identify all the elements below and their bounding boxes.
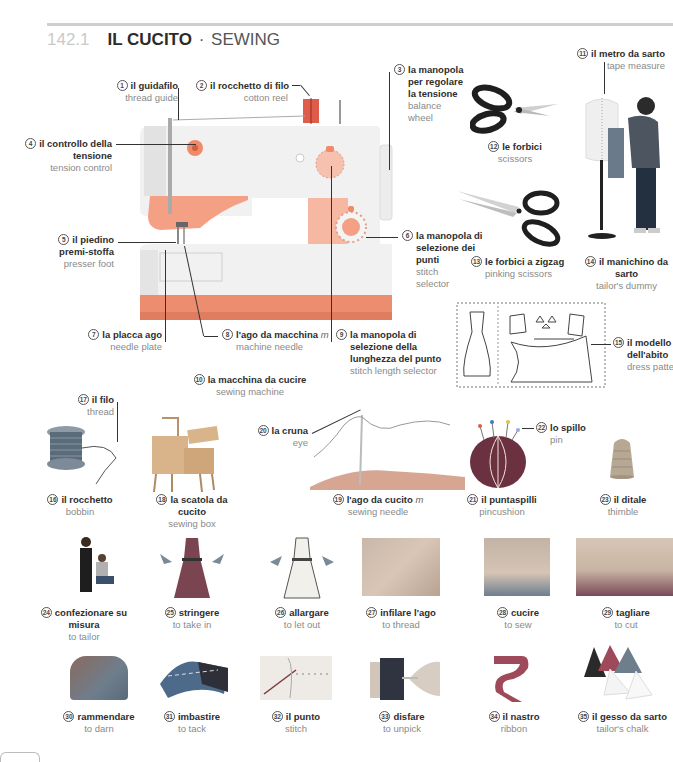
label-pincushion: 21il puntaspilli pincushion	[462, 494, 542, 518]
thread-needle-photo	[362, 538, 440, 596]
leader-line	[118, 242, 176, 243]
label-to-thread: 27infilare l'ago to thread	[356, 607, 446, 631]
stitch-illustration	[260, 656, 332, 700]
sewing-box-illustration	[148, 408, 228, 492]
leader-line	[366, 237, 398, 238]
pinking-scissors-illustration	[455, 185, 565, 250]
label-eye: 20la cruna eye	[248, 425, 308, 449]
darn-illustration	[70, 656, 128, 700]
sew-photo	[484, 538, 550, 596]
scissors-illustration	[470, 80, 560, 140]
label-to-tack: 31imbastire to tack	[152, 711, 232, 735]
label-thread: 17il filo thread	[60, 394, 114, 418]
label-ribbon: 34il nastro ribbon	[474, 711, 554, 735]
leader-line	[117, 402, 118, 442]
label-stitch: 32il punto stitch	[256, 711, 336, 735]
unpick-illustration	[366, 656, 440, 702]
sewing-needle-illustration	[310, 405, 465, 490]
label-balance-wheel: 3la manopola per regolare la tensione ba…	[394, 64, 464, 124]
leader-line	[604, 62, 605, 94]
label-pin: 22lo spillo pin	[536, 422, 596, 446]
label-bobbin: 16il rocchetto bobbin	[40, 494, 120, 518]
leader-line	[292, 85, 300, 86]
label-dress-pattern: 15il modello dell'abito dress pattern	[613, 337, 673, 373]
label-thread-guide: 1il guidafilo thread guide	[106, 80, 178, 104]
take-in-dress-illustration	[158, 536, 226, 600]
pincushion-illustration	[468, 418, 528, 490]
section-number: 142.1	[47, 30, 90, 49]
title-english: SEWING	[211, 30, 280, 49]
leader-line	[165, 250, 166, 342]
title-italian: IL CUCITO	[108, 30, 192, 49]
label-to-tailor: 24confezionare su misura to tailor	[34, 607, 134, 643]
label-machine-needle: 8l'ago da macchina m machine needle	[222, 329, 332, 353]
label-to-cut: 29tagliare to cut	[586, 607, 666, 631]
let-out-dress-illustration	[268, 536, 336, 600]
label-scissors: 12le forbici scissors	[480, 141, 550, 165]
label-stitch-length-selector: 9la manopola di selezione della lunghezz…	[336, 329, 446, 377]
dress-pattern-illustration	[456, 302, 606, 388]
page-title: 142.1IL CUCITO · SEWING	[47, 30, 280, 50]
label-sewing-needle: 19l'ago da cucito m sewing needle	[318, 494, 438, 518]
tailors-chalk-illustration	[580, 643, 654, 705]
thimble-illustration	[604, 435, 640, 479]
title-separator: ·	[199, 30, 205, 49]
label-cotton-reel: 2il rocchetto di filo cotton reel	[196, 80, 288, 104]
leader-line	[522, 428, 534, 429]
page-tab-marker	[0, 752, 40, 762]
label-needle-plate: 7la placca ago needle plate	[80, 329, 162, 353]
leader-line	[331, 166, 332, 342]
label-to-sew: 28cucire to sew	[478, 607, 558, 631]
leader-line	[389, 72, 390, 170]
label-take-in: 25stringere to take in	[152, 607, 232, 631]
label-tailors-chalk: 35il gesso da sarto tailor's chalk	[572, 711, 673, 735]
label-tension-control: 4il controllo della tensione tension con…	[20, 138, 112, 174]
label-tape-measure: 11il metro da sarto tape measure	[575, 48, 665, 72]
cut-photo	[576, 538, 673, 596]
ribbon-illustration	[492, 654, 532, 704]
label-to-unpick: 33disfare to unpick	[362, 711, 442, 735]
label-sewing-box: 18la scatola da cucito sewing box	[152, 494, 232, 530]
bobbin-illustration	[46, 420, 126, 490]
leader-line	[116, 144, 196, 145]
label-presser-foot: 5il piedino premi-stoffa presser foot	[30, 234, 114, 270]
leader-line	[591, 344, 611, 345]
label-sewing-machine: 10la macchina da cucire sewing machine	[190, 374, 310, 398]
label-let-out: 26allargare to let out	[262, 607, 342, 631]
tailors-dummy-illustration	[572, 88, 673, 248]
label-tailors-dummy: 14il manichino da sarto tailor's dummy	[580, 256, 673, 292]
label-to-darn: 30rammendare to darn	[56, 711, 142, 735]
label-pinking-scissors: 13le forbici a zigzag pinking scissors	[471, 256, 563, 280]
sewing-machine-illustration	[130, 90, 400, 320]
tack-illustration	[158, 654, 230, 702]
leader-line	[178, 88, 179, 120]
header-rule	[47, 23, 673, 26]
tailoring-illustration	[70, 536, 120, 598]
leader-line	[204, 336, 218, 337]
label-thimble: 23il ditale thimble	[590, 494, 656, 518]
